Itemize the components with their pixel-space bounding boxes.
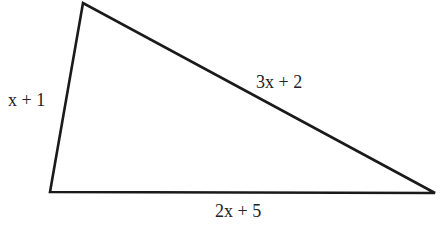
triangle-shape [0, 0, 448, 229]
triangle-diagram: x + 1 3x + 2 2x + 5 [0, 0, 448, 229]
left-side-label: x + 1 [8, 91, 45, 109]
base-label: 2x + 5 [215, 202, 261, 220]
hypotenuse-label: 3x + 2 [256, 73, 302, 91]
